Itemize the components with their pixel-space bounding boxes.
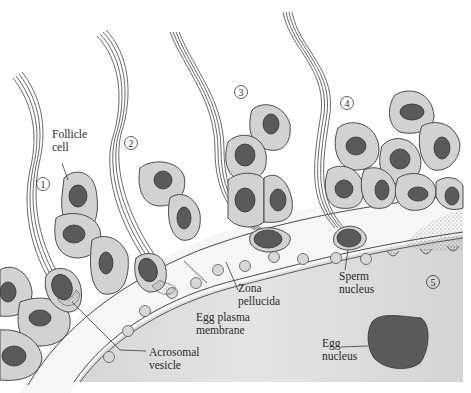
svg-text:2: 2: [129, 138, 134, 149]
step-2-marker: 2: [125, 137, 138, 150]
label-sperm-nucleus: Sperm: [339, 270, 369, 283]
follicle-cell: [419, 123, 460, 171]
step-4-marker: 4: [341, 97, 354, 110]
label-egg-plasma-membrane-2: membrane: [196, 324, 245, 336]
label-acrosomal-vesicle: Acrosomal: [149, 346, 199, 358]
svg-text:3: 3: [239, 87, 244, 98]
follicle-cell: [395, 174, 436, 211]
svg-text:1: 1: [41, 179, 46, 190]
label-zona-pellucida: Zona: [238, 282, 262, 294]
follicle-cell: [264, 175, 292, 222]
svg-text:4: 4: [345, 98, 350, 109]
step-3-marker: 3: [235, 86, 248, 99]
label-egg-plasma-membrane: Egg plasma: [196, 311, 250, 324]
follicle-cell: [335, 123, 379, 170]
sperm-head-step4: [334, 226, 367, 250]
label-follicle-cell-2: cell: [52, 141, 69, 153]
follicle-cell: [91, 237, 129, 295]
label-egg-nucleus: Egg: [322, 337, 341, 350]
label-egg-nucleus-2: nucleus: [322, 350, 358, 362]
follicle-cell: [325, 166, 364, 208]
follicle-cell: [228, 173, 264, 227]
label-follicle-cell: Follicle: [52, 128, 87, 140]
fertilization-diagram: 1 2 3 4 5 Follicle cell Acrosomal vesicl…: [0, 0, 471, 393]
label-zona-pellucida-2: pellucida: [238, 295, 280, 308]
step-1-marker: 1: [37, 178, 50, 191]
egg-nucleus: [368, 316, 428, 369]
follicle-cell: [169, 195, 201, 241]
label-acrosomal-vesicle-2: vesicle: [149, 359, 181, 371]
sperm-head-step3: [250, 228, 291, 252]
label-sperm-nucleus-2: nucleus: [339, 283, 375, 295]
svg-text:5: 5: [431, 277, 436, 288]
